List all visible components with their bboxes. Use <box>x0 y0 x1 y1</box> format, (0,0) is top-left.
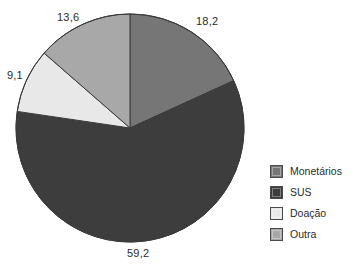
legend-item-sus[interactable]: SUS <box>270 182 352 203</box>
slice-label-sus: 59,2 <box>127 248 149 259</box>
slice-label-outra: 13,6 <box>57 12 79 23</box>
pie-chart-figure: 18,2 59,2 9,1 13,6 MonetáriosSUSDoaçãoOu… <box>0 0 352 269</box>
slice-label-doacao: 9,1 <box>7 70 23 81</box>
legend-swatch-outra <box>270 228 283 241</box>
legend-swatch-monetarios <box>270 165 283 178</box>
pie-plot-area <box>0 0 262 269</box>
legend-item-doacao[interactable]: Doação <box>270 203 352 224</box>
legend-label-doacao: Doação <box>290 208 326 219</box>
legend-item-outra[interactable]: Outra <box>270 224 352 245</box>
pie-graphic <box>0 0 262 269</box>
legend-label-outra: Outra <box>290 229 316 240</box>
legend-item-monetarios[interactable]: Monetários <box>270 161 352 182</box>
legend-swatch-sus <box>270 186 283 199</box>
legend-swatch-doacao <box>270 207 283 220</box>
slice-label-monetarios: 18,2 <box>196 16 218 27</box>
legend-label-sus: SUS <box>290 187 312 198</box>
legend-label-monetarios: Monetários <box>290 166 342 177</box>
chart-legend: MonetáriosSUSDoaçãoOutra <box>270 161 352 245</box>
